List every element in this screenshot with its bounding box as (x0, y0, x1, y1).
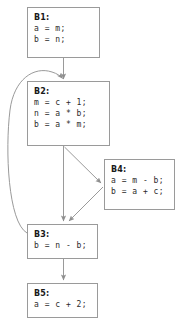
statement: b = n; (34, 34, 94, 45)
edge-b4-to-b3 (69, 187, 103, 221)
control-flow-graph: B1: a = m; b = n; B2: m = c + 1; n = a *… (0, 0, 179, 326)
statement: b = a * m; (34, 119, 104, 130)
block-label-b4: B4: (111, 164, 169, 175)
statement: b = n - b; (34, 240, 92, 251)
statement: n = a * b; (34, 108, 104, 119)
basic-block-b2[interactable]: B2: m = c + 1; n = a * b; b = a * m; (27, 81, 110, 146)
statement: m = c + 1; (34, 97, 104, 108)
statement: a = m - b; (111, 175, 169, 186)
statement: a = m; (34, 23, 94, 34)
statement: a = c + 2; (34, 299, 92, 310)
edge-b2-to-b4 (65, 147, 102, 183)
basic-block-b1[interactable]: B1: a = m; b = n; (27, 7, 100, 58)
block-label-b2: B2: (34, 86, 104, 97)
basic-block-b3[interactable]: B3: b = n - b; (27, 224, 98, 259)
basic-block-b4[interactable]: B4: a = m - b; b = a + c; (104, 159, 175, 210)
block-label-b1: B1: (34, 12, 94, 23)
basic-block-b5[interactable]: B5: a = c + 2; (27, 283, 98, 318)
block-label-b5: B5: (34, 288, 92, 299)
statement: b = a + c; (111, 186, 169, 197)
block-label-b3: B3: (34, 229, 92, 240)
